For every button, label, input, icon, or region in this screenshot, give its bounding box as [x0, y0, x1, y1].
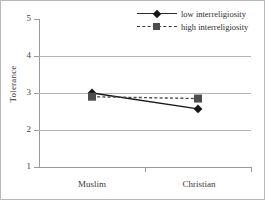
- legend-key-high-icon: [137, 21, 177, 33]
- legend-item-low: low interreligiosity: [137, 7, 263, 20]
- data-point-diamond: [194, 105, 203, 114]
- legend-item-high: high interreligiosity: [137, 20, 263, 33]
- legend-key-low-icon: [137, 8, 177, 20]
- legend-label-low: low interreligiosity: [181, 9, 246, 19]
- data-point-square: [88, 93, 96, 101]
- legend-label-high: high interreligiosity: [181, 22, 248, 32]
- chart-legend: low interreligiosity high interreligiosi…: [137, 7, 263, 33]
- series-line-filled-diamond: [92, 93, 198, 109]
- data-point-square: [194, 95, 202, 103]
- series-line-filled-square: [92, 97, 198, 99]
- chart-figure: Tolerance 5 4 3 2 1 Muslim Christian low…: [0, 0, 265, 200]
